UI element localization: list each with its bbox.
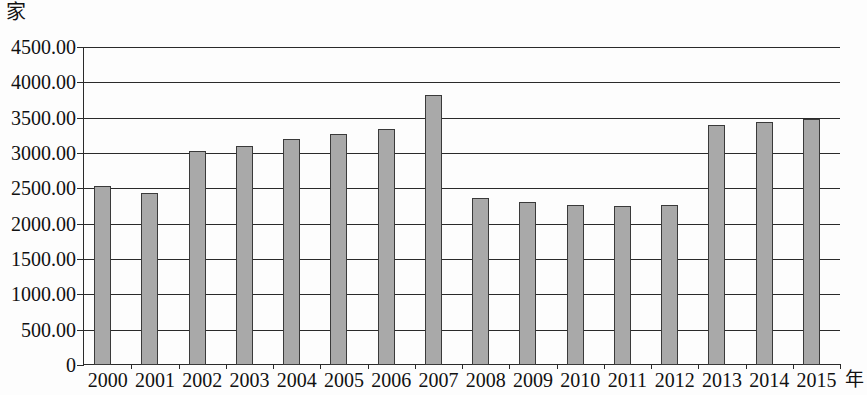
- bar: [661, 205, 678, 365]
- bar: [567, 205, 584, 365]
- y-axis-tick: [77, 259, 84, 260]
- x-axis-tick: [226, 364, 227, 369]
- chart-page: 家 0500.001000.001500.002000.002500.00300…: [0, 0, 867, 395]
- y-axis-tick-label: 4000.00: [11, 72, 76, 92]
- y-axis-tick: [77, 82, 84, 83]
- bar: [756, 122, 773, 365]
- y-axis-tick-label: 3000.00: [11, 143, 76, 163]
- y-axis-tick: [77, 153, 84, 154]
- y-axis-tick-label: 1000.00: [11, 284, 76, 304]
- bar: [94, 186, 111, 365]
- bar: [472, 198, 489, 365]
- y-axis-tick-label: 2500.00: [11, 178, 76, 198]
- plot-area: [84, 47, 840, 365]
- x-axis-tick-label: 2015: [786, 370, 846, 390]
- bar: [803, 119, 820, 365]
- y-axis-tick: [77, 330, 84, 331]
- y-axis-tick: [77, 47, 84, 48]
- y-axis-tick: [77, 224, 84, 225]
- x-axis-unit-label: 年: [845, 370, 864, 389]
- bar: [236, 146, 253, 365]
- x-axis-tick: [557, 364, 558, 369]
- y-axis-tick-label: 2000.00: [11, 214, 76, 234]
- y-axis-tick-label: 1500.00: [11, 249, 76, 269]
- bar: [519, 202, 536, 365]
- gridline: [84, 47, 840, 48]
- x-axis-tick: [509, 364, 510, 369]
- bar: [378, 129, 395, 365]
- y-axis-tick: [77, 118, 84, 119]
- x-axis-tick: [368, 364, 369, 369]
- x-axis-tick: [746, 364, 747, 369]
- bar: [141, 193, 158, 365]
- x-axis-tick: [840, 364, 841, 369]
- bar: [189, 151, 206, 365]
- x-axis-tick: [179, 364, 180, 369]
- x-axis-tick: [462, 364, 463, 369]
- x-axis-tick: [604, 364, 605, 369]
- y-axis-tick: [77, 294, 84, 295]
- x-axis-tick: [793, 364, 794, 369]
- gridline: [84, 118, 840, 119]
- y-axis-tick-labels: 0500.001000.001500.002000.002500.003000.…: [0, 0, 76, 395]
- x-axis-tick: [131, 364, 132, 369]
- bar: [330, 134, 347, 365]
- bar: [283, 139, 300, 365]
- x-axis-tick: [415, 364, 416, 369]
- x-axis-tick: [320, 364, 321, 369]
- y-axis-tick: [77, 188, 84, 189]
- y-axis-tick-label: 0: [66, 355, 76, 375]
- bar: [708, 125, 725, 365]
- y-axis-tick-label: 3500.00: [11, 108, 76, 128]
- x-axis-tick: [651, 364, 652, 369]
- bar: [425, 95, 442, 365]
- gridline: [84, 82, 840, 83]
- y-axis-tick-label: 500.00: [21, 320, 76, 340]
- x-axis-tick: [273, 364, 274, 369]
- x-axis-tick: [698, 364, 699, 369]
- y-axis-tick-label: 4500.00: [11, 37, 76, 57]
- bar: [614, 206, 631, 365]
- y-axis-tick: [77, 365, 84, 366]
